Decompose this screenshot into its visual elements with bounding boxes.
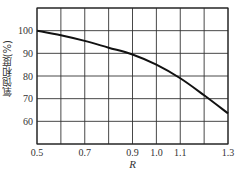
- x-tick-label: 1.0: [150, 147, 163, 158]
- x-tick-label: 0.5: [31, 147, 44, 158]
- chart: 60708090100 0.50.70.91.01.11.3 R: [0, 0, 236, 173]
- x-tick-label: 1.3: [222, 147, 235, 158]
- y-tick-label: 90: [23, 48, 33, 59]
- x-tick-label: 1.1: [174, 147, 187, 158]
- y-tick-label: 70: [23, 93, 33, 104]
- y-tick-label: 80: [23, 71, 33, 82]
- y-tick-label: 60: [23, 116, 33, 127]
- x-tick-label: 0.9: [126, 147, 139, 158]
- x-axis-ticks: 0.50.70.91.01.11.3: [31, 147, 235, 158]
- x-axis-title: R: [128, 158, 136, 170]
- y-axis-title: 氧饱和度(%): [2, 40, 16, 97]
- x-tick-label: 0.7: [79, 147, 92, 158]
- grid-lines: [37, 8, 228, 144]
- y-axis-ticks: 60708090100: [18, 25, 33, 127]
- y-tick-label: 100: [18, 25, 33, 36]
